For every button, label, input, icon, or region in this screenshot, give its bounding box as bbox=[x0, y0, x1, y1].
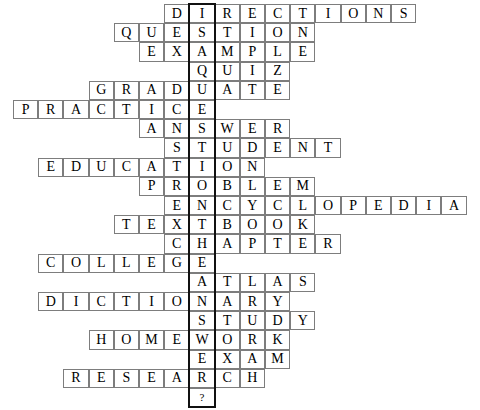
crossword-cell[interactable]: D bbox=[38, 292, 63, 311]
crossword-cell[interactable]: K bbox=[290, 215, 315, 234]
crossword-cell[interactable]: G bbox=[89, 81, 114, 100]
crossword-cell[interactable]: R bbox=[265, 119, 290, 138]
crossword-cell[interactable]: I bbox=[139, 292, 164, 311]
crossword-cell[interactable]: E bbox=[290, 42, 315, 61]
crossword-cell[interactable]: S bbox=[290, 273, 315, 292]
crossword-cell[interactable]: P bbox=[139, 177, 164, 196]
crossword-cell[interactable]: I bbox=[240, 62, 265, 81]
crossword-cell[interactable]: B bbox=[215, 177, 240, 196]
crossword-cell[interactable]: O bbox=[215, 158, 240, 177]
crossword-cell[interactable]: O bbox=[265, 215, 290, 234]
crossword-cell[interactable]: C bbox=[215, 369, 240, 388]
crossword-cell[interactable]: W bbox=[215, 119, 240, 138]
crossword-cell[interactable]: R bbox=[114, 81, 139, 100]
crossword-cell[interactable]: I bbox=[63, 292, 88, 311]
crossword-cell[interactable]: T bbox=[315, 138, 340, 157]
crossword-key-cell[interactable]: N bbox=[189, 196, 214, 215]
crossword-cell[interactable]: O bbox=[315, 196, 340, 215]
crossword-cell[interactable]: T bbox=[114, 215, 139, 234]
crossword-cell[interactable]: L bbox=[240, 273, 265, 292]
crossword-key-cell[interactable]: T bbox=[189, 138, 214, 157]
crossword-cell[interactable]: X bbox=[164, 42, 189, 61]
crossword-cell[interactable]: I bbox=[416, 196, 441, 215]
crossword-cell[interactable]: T bbox=[164, 158, 189, 177]
crossword-cell[interactable]: T bbox=[290, 4, 315, 23]
crossword-cell[interactable]: Z bbox=[265, 62, 290, 81]
crossword-cell[interactable]: B bbox=[215, 215, 240, 234]
crossword-cell[interactable]: O bbox=[265, 23, 290, 42]
crossword-cell[interactable]: R bbox=[240, 292, 265, 311]
crossword-cell[interactable]: A bbox=[240, 350, 265, 369]
crossword-cell[interactable]: E bbox=[139, 42, 164, 61]
crossword-cell[interactable]: P bbox=[240, 234, 265, 253]
crossword-key-cell[interactable]: W bbox=[189, 330, 214, 349]
crossword-cell[interactable]: T bbox=[215, 273, 240, 292]
crossword-cell[interactable]: M bbox=[215, 42, 240, 61]
crossword-cell[interactable]: A bbox=[215, 234, 240, 253]
crossword-cell[interactable]: U bbox=[240, 311, 265, 330]
crossword-cell[interactable]: N bbox=[290, 138, 315, 157]
crossword-key-cell[interactable]: I bbox=[189, 158, 214, 177]
crossword-key-cell[interactable]: E bbox=[189, 350, 214, 369]
crossword-cell[interactable]: R bbox=[315, 234, 340, 253]
crossword-cell[interactable]: A bbox=[139, 158, 164, 177]
crossword-cell[interactable]: C bbox=[265, 196, 290, 215]
crossword-cell[interactable]: U bbox=[89, 158, 114, 177]
crossword-cell[interactable]: H bbox=[89, 330, 114, 349]
crossword-cell[interactable]: R bbox=[38, 100, 63, 119]
crossword-cell[interactable]: X bbox=[164, 215, 189, 234]
crossword-cell[interactable]: D bbox=[164, 81, 189, 100]
crossword-cell[interactable]: O bbox=[164, 292, 189, 311]
crossword-cell[interactable]: S bbox=[114, 369, 139, 388]
crossword-cell[interactable]: O bbox=[341, 4, 366, 23]
crossword-key-cell[interactable]: U bbox=[189, 81, 214, 100]
crossword-cell[interactable]: L bbox=[89, 254, 114, 273]
crossword-key-cell[interactable]: A bbox=[189, 273, 214, 292]
crossword-key-cell[interactable]: H bbox=[189, 234, 214, 253]
crossword-key-cell[interactable]: O bbox=[189, 177, 214, 196]
crossword-cell[interactable]: M bbox=[265, 350, 290, 369]
crossword-cell[interactable]: T bbox=[240, 81, 265, 100]
crossword-key-cell[interactable]: E bbox=[189, 254, 214, 273]
crossword-cell[interactable]: U bbox=[139, 23, 164, 42]
crossword-cell[interactable]: T bbox=[114, 100, 139, 119]
crossword-cell[interactable]: L bbox=[265, 42, 290, 61]
crossword-cell[interactable]: R bbox=[240, 330, 265, 349]
crossword-cell[interactable]: A bbox=[139, 119, 164, 138]
crossword-cell[interactable]: I bbox=[240, 23, 265, 42]
crossword-cell[interactable]: O bbox=[114, 330, 139, 349]
crossword-key-cell[interactable]: ? bbox=[189, 388, 214, 407]
crossword-cell[interactable]: P bbox=[341, 196, 366, 215]
crossword-cell[interactable]: T bbox=[215, 23, 240, 42]
crossword-cell[interactable]: R bbox=[215, 4, 240, 23]
crossword-key-cell[interactable]: R bbox=[189, 369, 214, 388]
crossword-cell[interactable]: E bbox=[240, 4, 265, 23]
crossword-cell[interactable]: X bbox=[215, 350, 240, 369]
crossword-cell[interactable]: E bbox=[265, 177, 290, 196]
crossword-key-cell[interactable]: I bbox=[189, 4, 214, 23]
crossword-cell[interactable]: E bbox=[139, 215, 164, 234]
crossword-cell[interactable]: Y bbox=[290, 311, 315, 330]
crossword-cell[interactable]: Y bbox=[240, 196, 265, 215]
crossword-key-cell[interactable]: S bbox=[189, 311, 214, 330]
crossword-cell[interactable]: D bbox=[391, 196, 416, 215]
crossword-cell[interactable]: P bbox=[13, 100, 38, 119]
crossword-cell[interactable]: A bbox=[441, 196, 466, 215]
crossword-cell[interactable]: D bbox=[265, 311, 290, 330]
crossword-cell[interactable]: E bbox=[89, 369, 114, 388]
crossword-cell[interactable]: O bbox=[240, 215, 265, 234]
crossword-cell[interactable]: C bbox=[114, 158, 139, 177]
crossword-cell[interactable]: E bbox=[139, 254, 164, 273]
crossword-cell[interactable]: A bbox=[139, 81, 164, 100]
crossword-cell[interactable]: L bbox=[290, 196, 315, 215]
crossword-cell[interactable]: T bbox=[114, 292, 139, 311]
crossword-cell[interactable]: N bbox=[240, 158, 265, 177]
crossword-cell[interactable]: A bbox=[215, 81, 240, 100]
crossword-cell[interactable]: T bbox=[215, 311, 240, 330]
crossword-cell[interactable]: N bbox=[164, 119, 189, 138]
crossword-cell[interactable]: M bbox=[290, 177, 315, 196]
crossword-cell[interactable]: I bbox=[139, 100, 164, 119]
crossword-cell[interactable]: L bbox=[240, 177, 265, 196]
crossword-cell[interactable]: K bbox=[265, 330, 290, 349]
crossword-cell[interactable]: E bbox=[164, 330, 189, 349]
